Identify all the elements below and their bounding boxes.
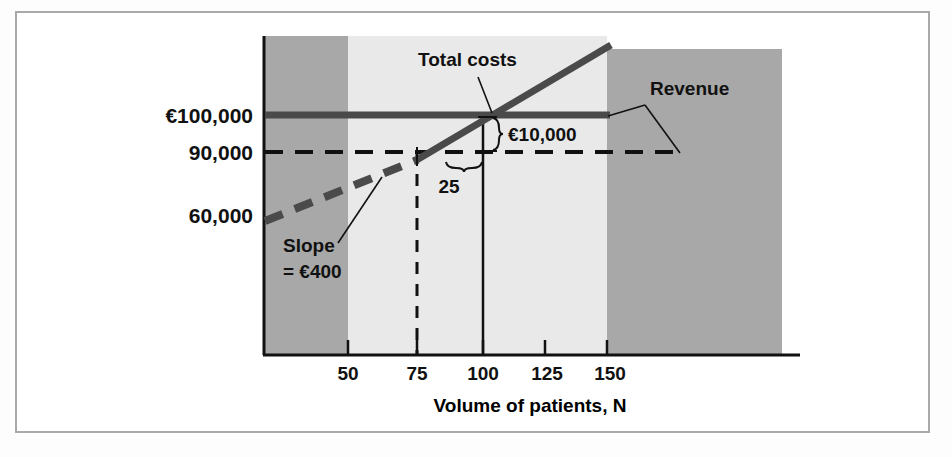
revenue-label: Revenue: [650, 78, 729, 99]
x-tick-label-75: 75: [406, 363, 428, 384]
x-tick-label-50: 50: [337, 363, 358, 384]
total-costs-label: Total costs: [418, 49, 517, 70]
x-tick-label-100: 100: [467, 363, 499, 384]
y-axis-tick-labels: €100,000 90,000 60,000: [165, 104, 253, 227]
money-gap-label: €10,000: [508, 124, 577, 145]
band-middle-light: [348, 36, 607, 354]
break-even-chart: 50 75 100 125 150 €100,000 90,000 60,000…: [0, 0, 952, 457]
x-tick-label-150: 150: [594, 363, 626, 384]
slope-label-line1: Slope: [283, 235, 335, 256]
x-axis-title: Volume of patients, N: [434, 395, 627, 416]
figure-root: 50 75 100 125 150 €100,000 90,000 60,000…: [0, 0, 952, 457]
x-tick-label-125: 125: [531, 363, 563, 384]
x-axis-tick-labels: 50 75 100 125 150: [337, 363, 625, 384]
y-tick-label-60000: 60,000: [189, 204, 253, 227]
slope-label-line2: = €400: [283, 261, 342, 282]
y-tick-label-100000: €100,000: [165, 104, 253, 127]
y-tick-label-90000: 90,000: [189, 141, 253, 164]
volume-gap-label: 25: [438, 176, 460, 197]
